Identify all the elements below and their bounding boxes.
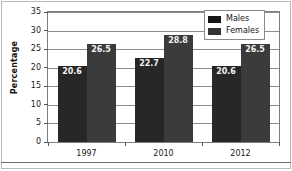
bar-females-2012[interactable]: 26.5 bbox=[241, 44, 270, 142]
y-axis-tick: 30 bbox=[31, 27, 48, 35]
bar-value-label: 26.5 bbox=[241, 45, 270, 55]
legend-swatch-males-icon bbox=[208, 16, 221, 23]
y-axis-tick-mark bbox=[44, 67, 48, 68]
y-axis-tick-label: 5 bbox=[36, 119, 44, 127]
bar-males-2010[interactable]: 22.7 bbox=[135, 58, 164, 142]
y-axis-tick-label: 15 bbox=[31, 82, 44, 90]
y-axis-tick-mark bbox=[44, 12, 48, 13]
y-axis-tick-mark bbox=[44, 123, 48, 124]
bar-females-1997[interactable]: 26.5 bbox=[87, 44, 116, 142]
bar-females-2010[interactable]: 28.8 bbox=[164, 35, 193, 142]
x-axis-tick-mark bbox=[48, 142, 49, 146]
y-axis-tick-mark bbox=[44, 49, 48, 50]
bar-value-label: 20.6 bbox=[58, 67, 87, 77]
legend-label-females: Females bbox=[226, 27, 259, 35]
y-axis-tick: 35 bbox=[31, 8, 48, 16]
chart-legend: Males Females bbox=[204, 10, 265, 40]
x-axis-category-label-2010: 2010 bbox=[153, 149, 173, 158]
bar-males-1997[interactable]: 20.6 bbox=[58, 66, 87, 143]
x-axis-tick-mark bbox=[202, 142, 203, 146]
bar-value-label: 22.7 bbox=[135, 59, 164, 69]
x-axis-tick-mark bbox=[125, 142, 126, 146]
x-axis-category-label-2012: 2012 bbox=[230, 149, 250, 158]
y-axis-tick-label: 0 bbox=[36, 138, 44, 146]
y-axis-tick: 20 bbox=[31, 64, 48, 72]
y-axis-tick-label: 30 bbox=[31, 27, 44, 35]
y-axis-tick: 5 bbox=[36, 119, 48, 127]
bottom-divider bbox=[1, 162, 291, 163]
bar-chart-figure: Percentage 0510152025303520.626.5199722.… bbox=[0, 0, 292, 171]
bar-males-2012[interactable]: 20.6 bbox=[212, 66, 241, 143]
legend-swatch-females-icon bbox=[208, 28, 221, 35]
y-axis-tick-mark bbox=[44, 30, 48, 31]
y-axis-tick-mark bbox=[44, 86, 48, 87]
legend-label-males: Males bbox=[226, 15, 249, 23]
bar-value-label: 28.8 bbox=[164, 36, 193, 46]
y-axis-tick: 15 bbox=[31, 82, 48, 90]
y-axis-tick: 0 bbox=[36, 138, 48, 146]
bar-value-label: 26.5 bbox=[87, 45, 116, 55]
y-axis-title: Percentage bbox=[10, 33, 19, 103]
x-axis-category-label-1997: 1997 bbox=[76, 149, 96, 158]
y-axis-tick-label: 20 bbox=[31, 64, 44, 72]
y-axis-tick-label: 35 bbox=[31, 8, 44, 16]
x-axis-tick-mark bbox=[279, 142, 280, 146]
bar-value-label: 20.6 bbox=[212, 67, 241, 77]
legend-item-males[interactable]: Males bbox=[208, 13, 259, 25]
legend-item-females[interactable]: Females bbox=[208, 25, 259, 37]
y-axis-tick-label: 10 bbox=[31, 101, 44, 109]
y-axis-tick: 25 bbox=[31, 45, 48, 53]
y-axis-tick: 10 bbox=[31, 101, 48, 109]
y-axis-tick-mark bbox=[44, 104, 48, 105]
y-axis-tick-label: 25 bbox=[31, 45, 44, 53]
